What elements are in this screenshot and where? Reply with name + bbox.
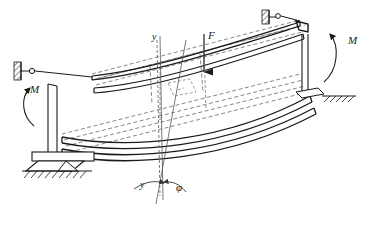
lower-beam-deformed [62, 96, 316, 161]
force-label-F: F [208, 30, 215, 41]
moment-arrow-right [324, 34, 336, 82]
rotation-label-phi: φ [176, 182, 182, 193]
bottom-left-base-support [22, 152, 94, 178]
right-base-support [296, 88, 356, 102]
axis-label-y-top: y [152, 32, 156, 42]
axis-label-y-bottom: y [140, 180, 144, 190]
left-column-member [48, 84, 57, 152]
beam-buckling-diagram [0, 0, 370, 226]
left-support [14, 62, 92, 80]
undeformed-beam-dashed [62, 20, 308, 152]
moment-label-right: M [348, 35, 357, 46]
cross-section-detail [168, 79, 196, 96]
upper-beam-deformed [92, 22, 304, 93]
moment-label-left: M [30, 84, 39, 95]
rotation-arc-phi [164, 182, 186, 192]
top-right-support [262, 10, 300, 24]
right-column-member [302, 34, 308, 97]
figure-canvas: M M F y y φ [0, 0, 370, 226]
